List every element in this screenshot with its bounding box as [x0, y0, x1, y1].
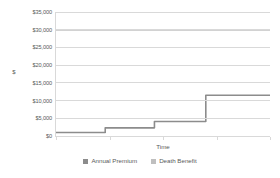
x-axis-title: Time — [56, 142, 270, 151]
legend-label: Death Benefit — [159, 157, 197, 165]
legend-item[interactable]: Death Benefit — [151, 157, 197, 165]
x-axis-tick — [110, 137, 111, 140]
plot-area — [56, 12, 270, 136]
gridline — [56, 65, 270, 66]
y-axis-tick-labels: $0$5,000$10,000$15,000$20,000$25,000$30,… — [18, 12, 54, 136]
gridline — [56, 118, 270, 119]
y-axis-tick-label: $30,000 — [32, 27, 52, 33]
chart-container: $ $0$5,000$10,000$15,000$20,000$25,000$3… — [0, 0, 280, 178]
x-axis-tick — [217, 137, 218, 140]
gridline — [56, 82, 270, 83]
y-axis-tick-label: $35,000 — [32, 9, 52, 15]
y-axis-tick-label: $5,000 — [35, 115, 52, 121]
y-axis-tick-label: $20,000 — [32, 62, 52, 68]
gridline — [56, 47, 270, 48]
gridline — [56, 29, 270, 30]
y-axis-tick-label: $15,000 — [32, 80, 52, 86]
y-axis-tick-label: $10,000 — [32, 98, 52, 104]
chart-legend: Annual PremiumDeath Benefit — [0, 157, 280, 165]
x-axis-tick — [270, 137, 271, 140]
x-axis-tick — [163, 137, 164, 140]
legend-swatch-icon — [83, 159, 88, 164]
legend-label: Annual Premium — [91, 157, 137, 165]
gridline — [56, 100, 270, 101]
y-axis-tick-label: $25,000 — [32, 44, 52, 50]
gridline — [56, 12, 270, 13]
y-axis-tick-label: $0 — [46, 133, 52, 139]
legend-swatch-icon — [151, 159, 156, 164]
x-axis-tick — [56, 137, 57, 140]
legend-item[interactable]: Annual Premium — [83, 157, 137, 165]
